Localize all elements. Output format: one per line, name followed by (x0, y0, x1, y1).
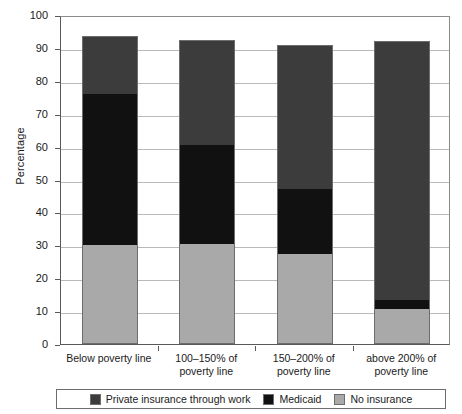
x-axis-category-label: Below poverty line (54, 352, 164, 365)
y-axis-tick-label: 50 (0, 174, 48, 186)
legend-item-label: Private insurance through work (106, 393, 251, 405)
bar-segment[interactable] (179, 145, 235, 244)
x-axis-category-line: above 200% of (346, 352, 456, 365)
legend-swatch-medicaid (263, 394, 274, 405)
x-axis-category-line: 150–200% of (249, 352, 359, 365)
bar-segment[interactable] (82, 36, 138, 94)
bar-segment[interactable] (277, 254, 333, 344)
x-axis-category-line: 100–150% of (151, 352, 261, 365)
bar-segment[interactable] (179, 40, 235, 145)
y-axis-tick-label: 70 (0, 108, 48, 120)
bar-segment[interactable] (179, 244, 235, 344)
legend-swatch-private (90, 394, 101, 405)
x-axis-tick-mark (353, 346, 354, 351)
bar-segment[interactable] (277, 45, 333, 190)
chart-legend: Private insurance through workMedicaidNo… (56, 389, 446, 409)
stacked-bar[interactable] (179, 40, 235, 344)
y-axis-tick-label: 90 (0, 42, 48, 54)
x-axis-category-line: poverty line (346, 365, 456, 378)
legend-item[interactable]: No insurance (334, 393, 412, 405)
x-axis-category-label: above 200% ofpoverty line (346, 352, 456, 377)
bar-segment[interactable] (374, 300, 430, 310)
x-axis-tick-mark (255, 346, 256, 351)
x-axis-category-line: poverty line (249, 365, 359, 378)
y-axis-tick-label: 20 (0, 272, 48, 284)
y-axis-tick-label: 40 (0, 206, 48, 218)
plot-area (60, 16, 450, 345)
y-axis-tick-label: 30 (0, 239, 48, 251)
y-axis-tick-label: 0 (0, 338, 48, 350)
x-axis-tick-mark (158, 346, 159, 351)
bar-segment[interactable] (82, 245, 138, 344)
legend-swatch-no-insurance (334, 394, 345, 405)
legend-item-label: No insurance (350, 393, 412, 405)
y-axis-tick-label: 100 (0, 9, 48, 21)
stacked-bar-chart-figure: Percentage 0102030405060708090100 Below … (0, 0, 462, 414)
bar-segment[interactable] (374, 41, 430, 299)
legend-item-label: Medicaid (279, 393, 321, 405)
legend-item[interactable]: Medicaid (263, 393, 321, 405)
x-axis-category-label: 150–200% ofpoverty line (249, 352, 359, 377)
x-axis-category-line: poverty line (151, 365, 261, 378)
stacked-bar[interactable] (277, 45, 333, 344)
y-axis-tick-label: 80 (0, 75, 48, 87)
stacked-bar[interactable] (82, 36, 138, 344)
y-axis-tick-label: 10 (0, 305, 48, 317)
stacked-bar[interactable] (374, 41, 430, 344)
bar-segment[interactable] (374, 309, 430, 344)
bar-segment[interactable] (82, 94, 138, 245)
legend-item[interactable]: Private insurance through work (90, 393, 251, 405)
x-axis-category-line: Below poverty line (54, 352, 164, 365)
y-axis-tick-label: 60 (0, 141, 48, 153)
y-axis-title: Percentage (14, 106, 26, 206)
x-axis-category-label: 100–150% ofpoverty line (151, 352, 261, 377)
y-axis-tick-mark (55, 345, 60, 346)
bar-segment[interactable] (277, 189, 333, 253)
